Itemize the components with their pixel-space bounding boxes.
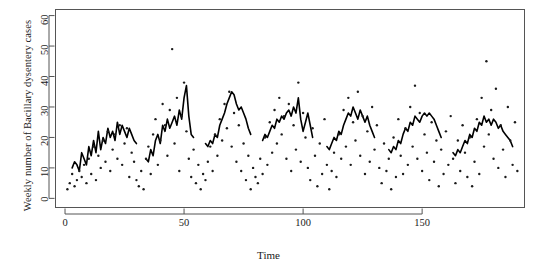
data-point bbox=[195, 182, 197, 184]
data-point bbox=[416, 158, 418, 160]
data-point bbox=[430, 121, 432, 123]
data-point bbox=[311, 127, 313, 129]
x-tick-label: 150 bbox=[402, 217, 442, 228]
data-point bbox=[109, 170, 111, 172]
data-point bbox=[107, 130, 109, 132]
data-point bbox=[471, 185, 473, 187]
data-point bbox=[495, 88, 497, 90]
data-point bbox=[285, 158, 287, 160]
data-point bbox=[185, 130, 187, 132]
data-point bbox=[238, 124, 240, 126]
data-point bbox=[142, 188, 144, 190]
data-point bbox=[154, 118, 156, 120]
data-point bbox=[302, 112, 304, 114]
data-point bbox=[516, 170, 518, 172]
data-point bbox=[140, 170, 142, 172]
data-point bbox=[71, 173, 73, 175]
data-point bbox=[128, 176, 130, 178]
line-segment bbox=[146, 86, 194, 162]
data-point bbox=[235, 161, 237, 163]
y-tick-label: 30 bbox=[38, 105, 49, 131]
data-point bbox=[166, 155, 168, 157]
data-point bbox=[459, 170, 461, 172]
data-point bbox=[359, 155, 361, 157]
data-point bbox=[130, 151, 132, 153]
data-point bbox=[114, 133, 116, 135]
data-point bbox=[247, 155, 249, 157]
data-point bbox=[400, 155, 402, 157]
data-point bbox=[435, 139, 437, 141]
data-point bbox=[180, 115, 182, 117]
data-point bbox=[264, 136, 266, 138]
data-point bbox=[271, 151, 273, 153]
data-point bbox=[147, 145, 149, 147]
data-point bbox=[509, 139, 511, 141]
data-point bbox=[307, 167, 309, 169]
data-point bbox=[409, 106, 411, 108]
y-tick-label: 40 bbox=[38, 75, 49, 101]
data-point bbox=[240, 170, 242, 172]
data-point bbox=[250, 188, 252, 190]
data-point bbox=[164, 124, 166, 126]
data-point bbox=[176, 97, 178, 99]
data-point bbox=[145, 158, 147, 160]
data-point bbox=[276, 142, 278, 144]
data-point bbox=[385, 170, 387, 172]
data-point bbox=[90, 173, 92, 175]
data-point bbox=[454, 182, 456, 184]
data-point bbox=[428, 179, 430, 181]
data-point bbox=[397, 118, 399, 120]
plot-area bbox=[0, 0, 537, 277]
data-point bbox=[330, 170, 332, 172]
data-point bbox=[202, 173, 204, 175]
data-point bbox=[261, 173, 263, 175]
data-point bbox=[376, 124, 378, 126]
data-point bbox=[69, 182, 71, 184]
data-point bbox=[373, 148, 375, 150]
data-point bbox=[476, 118, 478, 120]
line-segment bbox=[389, 113, 441, 153]
data-point bbox=[347, 97, 349, 99]
data-point bbox=[223, 103, 225, 105]
data-point bbox=[492, 158, 494, 160]
data-point bbox=[150, 173, 152, 175]
data-point bbox=[97, 155, 99, 157]
data-point bbox=[342, 109, 344, 111]
data-point bbox=[414, 84, 416, 86]
data-point bbox=[426, 151, 428, 153]
data-point bbox=[259, 158, 261, 160]
y-tick-label: 10 bbox=[38, 166, 49, 192]
data-point bbox=[288, 103, 290, 105]
data-point bbox=[473, 161, 475, 163]
data-point bbox=[323, 118, 325, 120]
data-point bbox=[333, 151, 335, 153]
data-point bbox=[383, 142, 385, 144]
data-point bbox=[511, 164, 513, 166]
data-point bbox=[300, 161, 302, 163]
data-point bbox=[135, 179, 137, 181]
x-tick-label: 50 bbox=[164, 217, 204, 228]
data-point bbox=[242, 142, 244, 144]
data-point bbox=[216, 155, 218, 157]
y-tick-label: 20 bbox=[38, 136, 49, 162]
data-point bbox=[183, 81, 185, 83]
plot-frame bbox=[56, 10, 525, 208]
data-point bbox=[230, 145, 232, 147]
data-point bbox=[390, 188, 392, 190]
data-point bbox=[200, 188, 202, 190]
data-point bbox=[257, 182, 259, 184]
data-point bbox=[214, 133, 216, 135]
data-point bbox=[485, 60, 487, 62]
data-point bbox=[133, 161, 135, 163]
data-point bbox=[316, 185, 318, 187]
data-point bbox=[354, 139, 356, 141]
data-point bbox=[402, 173, 404, 175]
data-point bbox=[295, 148, 297, 150]
data-point bbox=[273, 109, 275, 111]
data-point bbox=[438, 185, 440, 187]
data-point bbox=[447, 164, 449, 166]
data-point bbox=[290, 170, 292, 172]
data-point bbox=[102, 139, 104, 141]
x-tick-label: 0 bbox=[45, 217, 85, 228]
data-point bbox=[233, 112, 235, 114]
